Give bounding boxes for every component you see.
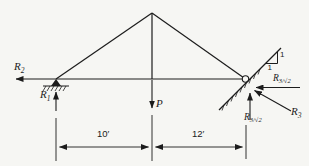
- pin-support-triangle: [51, 79, 61, 86]
- dimension-10ft-label: 10′: [97, 129, 109, 139]
- member-right-diagonal: [152, 13, 243, 77]
- r3-sqrt2-bottom-label: R3/√2: [244, 113, 262, 124]
- r3-resultant-arrow: [255, 91, 292, 112]
- r3-label: R3: [291, 106, 301, 119]
- slope-run-label: 1: [268, 64, 272, 72]
- r3-sqrt2-side-label: R3/√2: [273, 74, 291, 85]
- r1-label: R1: [40, 89, 50, 102]
- truss-statics-figure: R2 R1 P R3/√2 R3/√2 R3 1 1 10′ 12′: [0, 0, 309, 166]
- load-p-label: P: [156, 98, 163, 109]
- r2-label: R2: [14, 61, 24, 74]
- slope-rise-label: 1: [280, 51, 284, 59]
- truss-diagram-linework: [0, 0, 309, 166]
- dimension-12ft-label: 12′: [192, 129, 204, 139]
- member-left-diagonal: [56, 13, 152, 79]
